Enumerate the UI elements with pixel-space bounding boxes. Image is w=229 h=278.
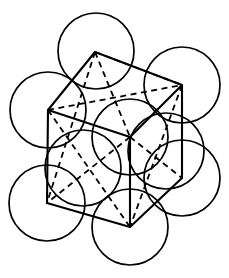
edge-lower-left-to-bottom [47, 203, 130, 227]
edge-top-to-right [95, 52, 182, 85]
fcc-unit-cell-figure [0, 0, 229, 278]
crystal-structure-drawing [0, 0, 229, 278]
hidden-diagonal-left-to-bottom [48, 110, 130, 227]
hidden-diagonal-center-to-lowerright [130, 137, 182, 178]
edge-left-to-lower-left [47, 110, 48, 203]
hidden-edge-top-to-center [95, 52, 130, 137]
edge-top-to-left [48, 52, 95, 110]
edge-lower-right-to-bottom [130, 178, 182, 227]
hidden-diagonal-top-to-lower-left [47, 52, 95, 203]
sphere-group [9, 13, 220, 265]
edge-left-to-center [48, 110, 130, 137]
edge-right-to-center [130, 85, 182, 137]
